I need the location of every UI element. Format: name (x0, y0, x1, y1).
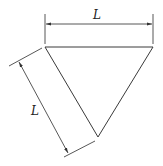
triangle-diagram: L L (0, 0, 163, 166)
side-extension-line-upper (9, 48, 42, 66)
side-dimension-line (19, 62, 68, 153)
triangle-shape (45, 47, 153, 137)
side-extension-line-lower (64, 141, 95, 157)
side-dimension-label: L (30, 104, 39, 118)
top-dimension-label: L (92, 8, 101, 22)
